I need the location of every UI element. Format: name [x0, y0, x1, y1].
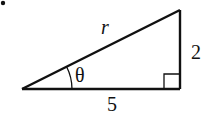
triangle-diagram: r 2 5 θ	[0, 0, 210, 118]
angle-arc	[67, 67, 73, 90]
adjacent-label: 5	[107, 93, 117, 115]
hypotenuse-label: r	[101, 16, 109, 38]
opposite-label: 2	[191, 41, 201, 63]
bullet-marker	[1, 1, 5, 5]
right-angle-marker	[164, 74, 180, 89]
angle-label: θ	[75, 64, 85, 86]
